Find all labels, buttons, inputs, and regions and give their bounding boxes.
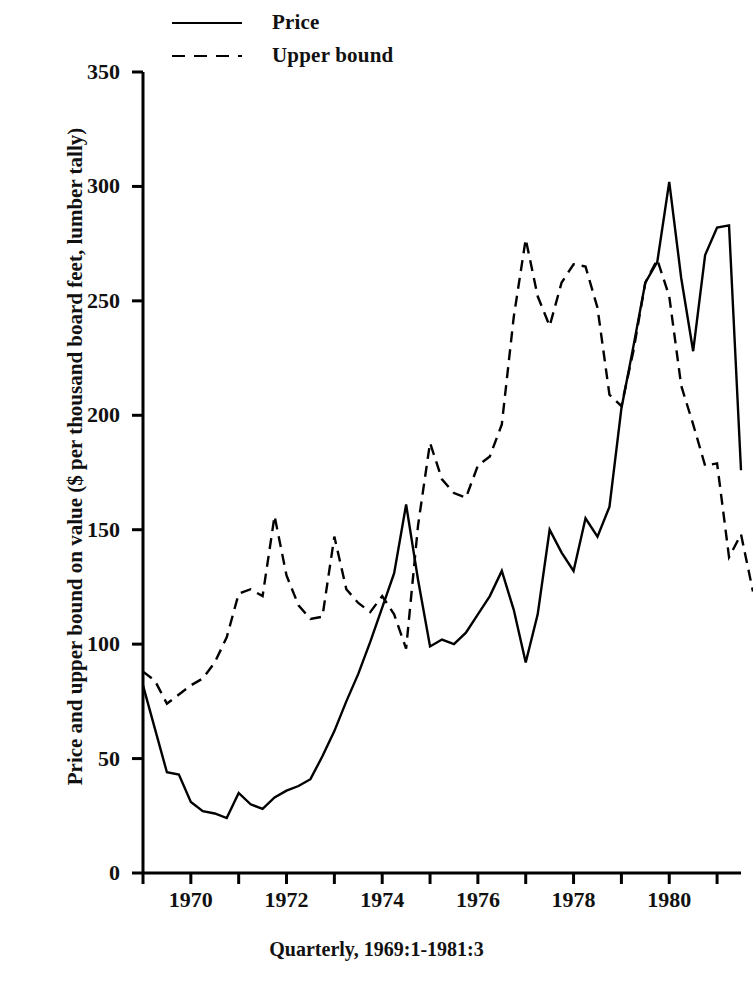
x-tick-label: 1976 — [433, 887, 523, 913]
y-tick-label: 100 — [46, 631, 120, 657]
plot-area — [0, 0, 753, 997]
y-tick-label: 0 — [46, 860, 120, 886]
x-tick-label: 1980 — [624, 887, 714, 913]
series-line-upper-bound — [143, 239, 753, 704]
y-tick-label: 350 — [46, 59, 120, 85]
x-tick-label: 1974 — [337, 887, 427, 913]
x-tick-label: 1978 — [529, 887, 619, 913]
y-tick-label: 50 — [46, 746, 120, 772]
y-tick-label: 150 — [46, 517, 120, 543]
chart-figure: Price Upper bound Price and upper bound … — [0, 0, 753, 997]
y-tick-label: 200 — [46, 402, 120, 428]
y-tick-label: 300 — [46, 173, 120, 199]
y-tick-label: 250 — [46, 288, 120, 314]
x-tick-label: 1972 — [242, 887, 332, 913]
x-tick-label: 1970 — [146, 887, 236, 913]
series-line-price — [143, 182, 741, 818]
